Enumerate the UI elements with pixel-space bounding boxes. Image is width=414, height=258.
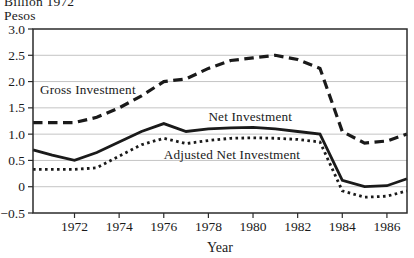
- y-tick-label: 2.5: [8, 48, 25, 63]
- x-tick-label: 1986: [373, 219, 400, 234]
- y-tick-label: 1.5: [8, 100, 25, 115]
- investment-line-chart: 3.02.52.01.51.00.50−0.519721974197619781…: [0, 0, 414, 258]
- series-label-gross-investment: Gross Investment: [40, 82, 136, 97]
- y-tick-label: 1.0: [8, 127, 25, 142]
- x-tick-label: 1984: [329, 219, 356, 234]
- y-tick-label: 2.0: [8, 74, 25, 89]
- x-tick-label: 1972: [61, 219, 88, 234]
- series-label-adjusted-net-investment: Adjusted Net Investment: [164, 147, 301, 162]
- x-tick-label: 1974: [106, 219, 133, 234]
- y-tick-label: 0: [18, 179, 25, 194]
- series-line-gross-investment: [33, 55, 407, 143]
- x-tick-label: 1978: [195, 219, 222, 234]
- chart-figure: Billion 1972 Pesos 3.02.52.01.51.00.50−0…: [0, 0, 414, 258]
- series-label-net-investment: Net Investment: [208, 109, 292, 124]
- x-tick-label: 1982: [284, 219, 311, 234]
- y-tick-label: −0.5: [1, 206, 26, 221]
- x-tick-label: 1980: [240, 219, 267, 234]
- y-tick-label: 3.0: [8, 22, 25, 37]
- x-axis-title: Year: [207, 240, 233, 255]
- x-tick-label: 1976: [150, 219, 177, 234]
- y-tick-label: 0.5: [8, 153, 25, 168]
